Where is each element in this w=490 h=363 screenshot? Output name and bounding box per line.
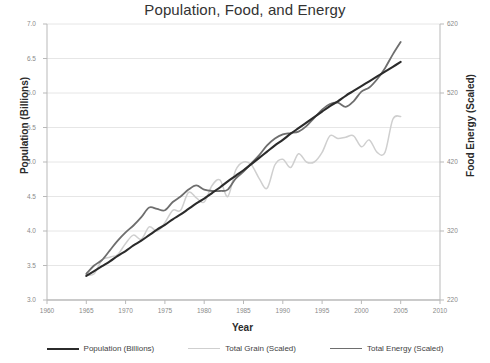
y-tick-label-left: 3.0 — [10, 296, 36, 303]
y-axis-left-title: Population (Billions) — [19, 46, 30, 206]
x-tick-label: 1975 — [145, 307, 185, 314]
legend-swatch-line-icon — [188, 348, 220, 349]
x-tick-label: 1990 — [263, 307, 303, 314]
data-series-group — [86, 42, 400, 276]
tick-marks — [43, 24, 444, 304]
chart-legend: Population (Billions)Total Grain (Scaled… — [0, 344, 490, 353]
x-tick-label: 1970 — [106, 307, 146, 314]
legend-swatch-line-icon — [330, 348, 362, 349]
legend-item[interactable]: Total Energy (Scaled) — [330, 344, 443, 353]
y-axis-right-title: Food Energy (Scaled) — [465, 46, 476, 206]
x-tick-label: 2010 — [420, 307, 460, 314]
y-tick-label-right: 220 — [447, 296, 473, 303]
y-tick-label-right: 320 — [447, 227, 473, 234]
chart-container: Population, Food, and Energy 3.03.54.04.… — [0, 0, 490, 363]
legend-label: Population (Billions) — [84, 344, 155, 353]
legend-label: Total Energy (Scaled) — [367, 344, 443, 353]
y-tick-label-right: 620 — [447, 20, 473, 27]
x-tick-label: 2005 — [381, 307, 421, 314]
legend-item[interactable]: Population (Billions) — [47, 344, 155, 353]
series-line — [86, 42, 400, 274]
x-tick-label: 1995 — [302, 307, 342, 314]
x-axis-title: Year — [45, 322, 440, 333]
x-tick-label: 1965 — [66, 307, 106, 314]
series-line — [86, 116, 400, 276]
x-tick-label: 1980 — [184, 307, 224, 314]
series-line — [86, 62, 400, 276]
y-tick-label-left: 7.0 — [10, 20, 36, 27]
legend-label: Total Grain (Scaled) — [225, 344, 296, 353]
x-tick-label: 1960 — [27, 307, 67, 314]
legend-item[interactable]: Total Grain (Scaled) — [188, 344, 296, 353]
legend-swatch-line-icon — [47, 348, 79, 350]
y-tick-label-left: 3.5 — [10, 262, 36, 269]
x-tick-label: 2000 — [341, 307, 381, 314]
y-tick-label-left: 4.0 — [10, 227, 36, 234]
x-tick-label: 1985 — [224, 307, 264, 314]
